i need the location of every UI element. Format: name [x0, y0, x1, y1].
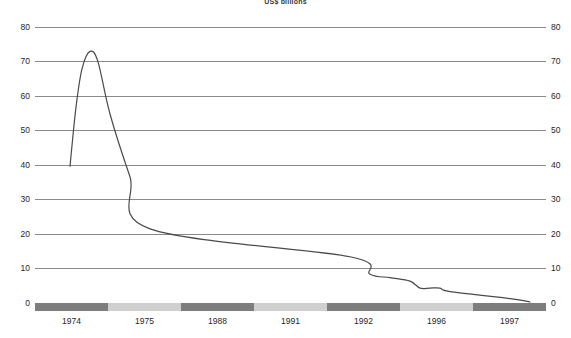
- x-axis-band-1975: [108, 303, 181, 311]
- chart-title: US$ billions: [0, 0, 571, 6]
- x-axis-band-1988: [181, 303, 254, 311]
- x-axis-label-1975: 1975: [108, 316, 181, 326]
- gridline-50: [35, 130, 546, 131]
- gridline-70: [35, 61, 546, 62]
- series-line-value: [70, 51, 530, 302]
- gridline-30: [35, 199, 546, 200]
- y-axis-left-tick-80: 80: [8, 23, 30, 32]
- y-axis-left-tick-40: 40: [8, 161, 30, 170]
- x-axis-label-1974: 1974: [35, 316, 108, 326]
- gridline-20: [35, 234, 546, 235]
- x-axis-band-1997: [473, 303, 546, 311]
- x-axis-label-1992: 1992: [327, 316, 400, 326]
- y-axis-right-tick-10: 10: [551, 264, 571, 273]
- y-axis-right-tick-20: 20: [551, 230, 571, 239]
- x-axis-label-1988: 1988: [181, 316, 254, 326]
- x-axis-band-1974: [35, 303, 108, 311]
- chart-container: US$ billions 80 70 60 50 40 30 20 10 0 8…: [0, 0, 571, 338]
- y-axis-left-tick-0: 0: [8, 299, 30, 308]
- y-axis-right-tick-70: 70: [551, 57, 571, 66]
- y-axis-right-tick-60: 60: [551, 92, 571, 101]
- y-axis-left-tick-50: 50: [8, 126, 30, 135]
- y-axis-left-tick-70: 70: [8, 57, 30, 66]
- gridline-80: [35, 27, 546, 28]
- gridline-60: [35, 96, 546, 97]
- y-axis-left-tick-10: 10: [8, 264, 30, 273]
- y-axis-right-tick-30: 30: [551, 195, 571, 204]
- y-axis-right-tick-0: 0: [551, 299, 571, 308]
- y-axis-left-tick-60: 60: [8, 92, 30, 101]
- gridline-10: [35, 268, 546, 269]
- x-axis-label-1996: 1996: [400, 316, 473, 326]
- gridline-40: [35, 165, 546, 166]
- y-axis-left-tick-30: 30: [8, 195, 30, 204]
- y-axis-right-tick-80: 80: [551, 23, 571, 32]
- x-axis-label-1991: 1991: [254, 316, 327, 326]
- x-axis-band-1991: [254, 303, 327, 311]
- series-layer: [0, 0, 571, 338]
- x-axis-band-1996: [400, 303, 473, 311]
- x-axis-band-1992: [327, 303, 400, 311]
- x-axis-label-1997: 1997: [473, 316, 546, 326]
- y-axis-left-tick-20: 20: [8, 230, 30, 239]
- y-axis-right-tick-50: 50: [551, 126, 571, 135]
- y-axis-right-tick-40: 40: [551, 161, 571, 170]
